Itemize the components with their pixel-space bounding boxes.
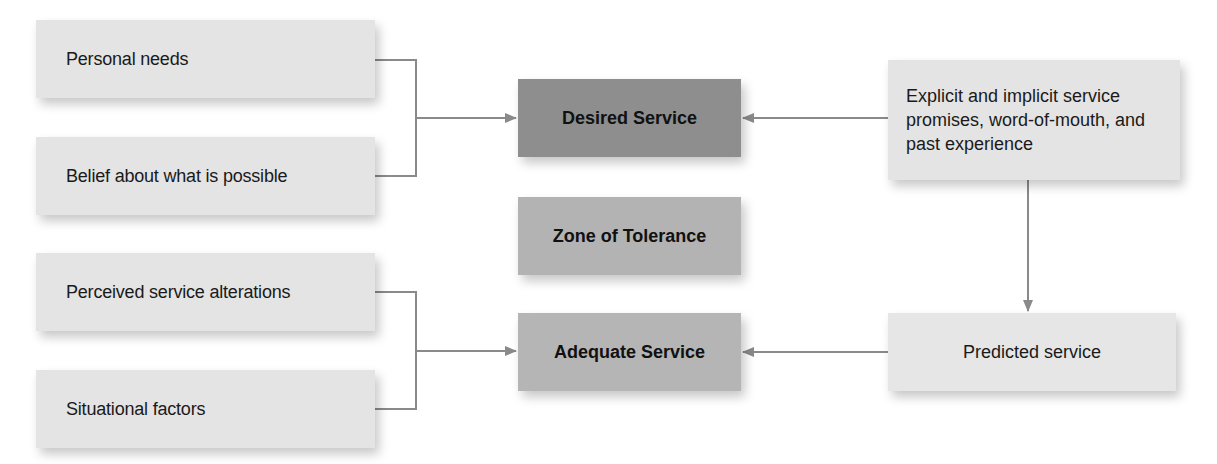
adequate-service-box: Adequate Service <box>518 313 741 391</box>
personal-needs-label: Personal needs <box>66 49 188 70</box>
adequate-inputs-bracket <box>375 292 516 409</box>
desired-inputs-bracket <box>375 60 516 176</box>
service-promises-box: Explicit and implicit service promises, … <box>888 60 1180 180</box>
belief-possible-label: Belief about what is possible <box>66 166 287 187</box>
situational-factors-label: Situational factors <box>66 399 205 420</box>
zone-of-tolerance-box: Zone of Tolerance <box>518 197 741 275</box>
zone-of-tolerance-label: Zone of Tolerance <box>553 226 707 247</box>
personal-needs-box: Personal needs <box>36 20 375 98</box>
situational-factors-box: Situational factors <box>36 370 375 448</box>
desired-service-box: Desired Service <box>518 79 741 157</box>
belief-possible-box: Belief about what is possible <box>36 137 375 215</box>
adequate-service-label: Adequate Service <box>554 342 705 363</box>
predicted-service-box: Predicted service <box>888 313 1176 391</box>
predicted-service-label: Predicted service <box>963 342 1101 363</box>
perceived-alterations-box: Perceived service alterations <box>36 253 375 331</box>
desired-service-label: Desired Service <box>562 108 697 129</box>
service-promises-label: Explicit and implicit service promises, … <box>906 84 1162 156</box>
perceived-alterations-label: Perceived service alterations <box>66 282 290 303</box>
